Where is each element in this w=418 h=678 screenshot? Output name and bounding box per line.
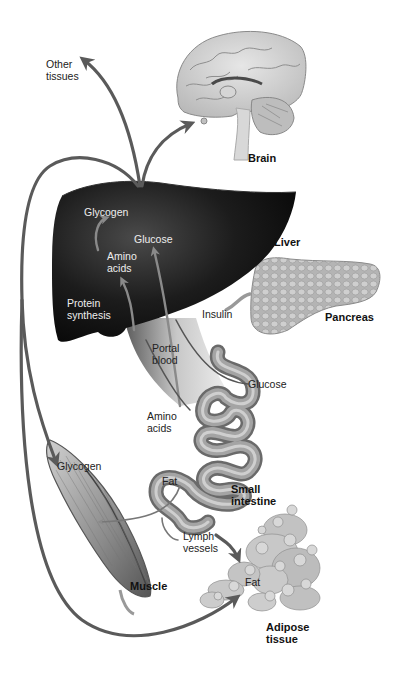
label-insulin: Insulin: [202, 308, 232, 320]
label-intestine-amino-acids: Amino acids: [147, 410, 177, 434]
label-brain: Brain: [248, 152, 276, 164]
label-other-tissues: Other tissues: [46, 58, 79, 82]
label-liver-glucose: Glucose: [134, 233, 173, 245]
arrow-liver-to-brain: [142, 124, 190, 186]
label-protein-synthesis: Protein synthesis: [67, 297, 111, 321]
label-lymph-vessels: Lymph vessels: [183, 530, 218, 554]
label-intestine-glucose: Glucose: [248, 378, 287, 390]
label-adipose-fat: Fat: [245, 576, 260, 588]
label-liver-glycogen: Glycogen: [84, 206, 128, 218]
diagram-canvas: [0, 0, 418, 678]
label-adipose-tissue: Adipose tissue: [266, 621, 309, 645]
label-small-intestine: Small intestine: [231, 483, 276, 507]
label-muscle: Muscle: [130, 580, 167, 592]
label-liver-amino-acids: Amino acids: [107, 250, 137, 274]
arrow-liver-to-other-tissues: [84, 60, 140, 186]
brain-illustration: [177, 31, 306, 160]
label-portal-blood: Portal blood: [152, 342, 179, 366]
label-muscle-glycogen: Glycogen: [57, 460, 101, 472]
label-liver: Liver: [274, 236, 300, 248]
adipose-illustration: [200, 505, 320, 611]
label-intestine-fat: Fat: [162, 475, 177, 487]
label-pancreas: Pancreas: [325, 311, 374, 323]
arrow-lymph-to-fat: [216, 535, 238, 558]
